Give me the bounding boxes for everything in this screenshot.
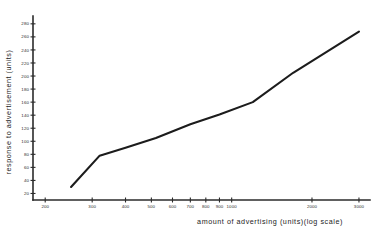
y-tick-label: 40 [24,178,30,183]
x-tick-label: 300 [88,204,96,209]
y-tick-label: 240 [21,48,29,53]
y-tick-label: 260 [21,34,29,39]
x-axis: 200300400500600700800900100020003000 [33,198,370,210]
x-tick-label: 400 [122,204,130,209]
y-tick-label: 20 [24,191,30,196]
y-tick-label: 220 [21,61,29,66]
x-tick-label: 700 [187,204,195,209]
y-tick-label: 280 [21,21,29,26]
y-tick-label: 160 [21,100,29,105]
x-tick-label: 200 [41,204,49,209]
y-tick-label: 180 [21,87,29,92]
y-tick-label: 140 [21,113,29,118]
line-chart: 20406080100120140160180200220240260280 2… [0,0,374,233]
x-tick-label: 2000 [307,204,318,209]
data-series-group [71,32,359,187]
x-tick-label: 3000 [354,204,365,209]
chart-figure: 20406080100120140160180200220240260280 2… [0,0,374,233]
y-axis: 20406080100120140160180200220240260280 [21,16,35,200]
x-tick-label: 800 [202,204,210,209]
x-tick-label: 600 [169,204,177,209]
y-tick-label: 120 [21,126,29,131]
x-tick-label: 1000 [227,204,238,209]
y-tick-label: 60 [24,165,30,170]
y-axis-title: response to advertisement (units) [4,50,13,175]
x-axis-title: amount of advertising (units)(log scale) [197,217,343,226]
x-tick-label: 900 [216,204,224,209]
y-tick-label: 100 [21,139,29,144]
y-tick-label: 80 [24,152,30,157]
x-tick-label: 500 [148,204,156,209]
response-line [71,32,359,187]
y-tick-label: 200 [21,74,29,79]
